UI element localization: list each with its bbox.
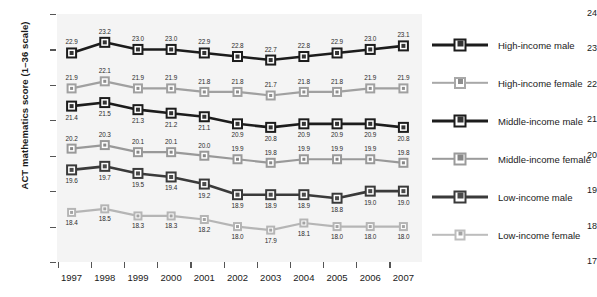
- data-point-marker-core: [401, 125, 405, 129]
- x-tick-mark: [257, 262, 258, 268]
- legend-swatch: [432, 228, 488, 242]
- data-point-value-label: 21.9: [355, 74, 385, 81]
- y-tick-mark: [50, 156, 56, 157]
- data-point-value-label: 21.8: [223, 78, 253, 85]
- data-point-marker-core: [169, 175, 173, 179]
- legend-label: Low-income male: [498, 192, 572, 203]
- data-point-value-label: 20.8: [388, 135, 418, 142]
- data-point-value-label: 23.1: [388, 31, 418, 38]
- data-point-marker-core: [302, 122, 306, 126]
- data-point-value-label: 18.2: [189, 226, 219, 233]
- x-tick-mark: [58, 262, 59, 268]
- data-point-value-label: 21.9: [123, 74, 153, 81]
- data-point-marker-core: [336, 90, 339, 93]
- data-point-value-label: 19.6: [57, 177, 87, 184]
- data-point-marker-core: [170, 214, 173, 217]
- data-point-marker-core: [269, 94, 272, 97]
- legend-marker: [454, 191, 467, 204]
- data-point-value-label: 20.1: [123, 138, 153, 145]
- data-point-marker-core: [169, 111, 173, 115]
- data-point-value-label: 22.9: [189, 38, 219, 45]
- legend-label: High-income male: [498, 40, 575, 51]
- data-point-value-label: 19.8: [388, 149, 418, 156]
- data-point-value-label: 23.0: [156, 35, 186, 42]
- data-point-marker-core: [170, 87, 173, 90]
- data-point-value-label: 21.7: [256, 81, 286, 88]
- data-point-value-label: 20.1: [156, 138, 186, 145]
- x-tick-mark: [290, 262, 291, 268]
- data-point-marker-core: [302, 158, 305, 161]
- data-point-value-label: 19.7: [90, 174, 120, 181]
- legend-item[interactable]: Middle-income female: [432, 148, 591, 170]
- data-point-marker-core: [136, 47, 140, 51]
- legend-swatch: [432, 76, 488, 90]
- legend-label: High-income female: [498, 78, 582, 89]
- data-point-marker-core: [202, 115, 206, 119]
- data-point-value-label: 20.0: [189, 142, 219, 149]
- data-point-value-label: 21.9: [388, 74, 418, 81]
- legend-swatch: [432, 152, 488, 166]
- data-point-marker-core: [369, 158, 372, 161]
- x-tick-mark: [124, 262, 125, 268]
- x-tick-mark: [356, 262, 357, 268]
- data-point-value-label: 19.5: [123, 181, 153, 188]
- data-point-value-label: 18.5: [90, 215, 120, 222]
- data-point-marker-core: [203, 218, 206, 221]
- legend-item[interactable]: Low-income male: [432, 186, 572, 208]
- data-point-marker-core: [402, 225, 405, 228]
- data-point-marker-core: [335, 196, 339, 200]
- data-point-marker-core: [203, 154, 206, 157]
- data-point-value-label: 19.2: [189, 192, 219, 199]
- data-point-marker-core: [401, 44, 405, 48]
- data-point-marker-core: [402, 87, 405, 90]
- data-point-marker-core: [402, 161, 405, 164]
- y-tick-mark: [50, 85, 56, 86]
- data-point-value-label: 18.9: [256, 202, 286, 209]
- legend-item[interactable]: High-income male: [432, 34, 575, 56]
- data-point-marker-core: [136, 108, 140, 112]
- data-point-value-label: 22.1: [90, 67, 120, 74]
- data-point-value-label: 18.0: [355, 233, 385, 240]
- data-point-marker-core: [169, 47, 173, 51]
- data-point-marker-core: [236, 90, 239, 93]
- data-point-value-label: 20.9: [322, 131, 352, 138]
- data-point-value-label: 21.3: [123, 117, 153, 124]
- y-tick-mark: [50, 262, 56, 263]
- y-axis-line: [0, 0, 1, 249]
- data-point-value-label: 18.0: [322, 233, 352, 240]
- chart-root: ACT mathematics score (1–36 scale) 17181…: [0, 0, 597, 297]
- data-point-value-label: 18.4: [57, 219, 87, 226]
- legend-item[interactable]: High-income female: [432, 72, 582, 94]
- data-point-marker-core: [401, 189, 405, 193]
- data-point-value-label: 21.8: [289, 78, 319, 85]
- data-point-value-label: 18.8: [322, 206, 352, 213]
- data-point-marker-core: [70, 104, 74, 108]
- data-point-value-label: 19.9: [289, 145, 319, 152]
- data-point-marker-core: [335, 122, 339, 126]
- legend-swatch: [432, 38, 488, 52]
- data-point-value-label: 22.8: [223, 42, 253, 49]
- data-point-marker-core: [302, 55, 306, 59]
- legend-item[interactable]: Low-income female: [432, 224, 580, 246]
- data-point-value-label: 21.9: [156, 74, 186, 81]
- data-point-value-label: 19.9: [322, 145, 352, 152]
- x-tick-mark: [389, 262, 390, 268]
- x-tick-mark: [91, 262, 92, 268]
- x-tick-mark: [224, 262, 225, 268]
- data-point-value-label: 21.5: [90, 110, 120, 117]
- legend-swatch: [432, 114, 488, 128]
- legend-marker: [454, 115, 467, 128]
- data-point-value-label: 21.8: [189, 78, 219, 85]
- y-tick-mark: [50, 120, 56, 121]
- legend-item[interactable]: Middle-income male: [432, 110, 583, 132]
- data-point-value-label: 20.9: [223, 131, 253, 138]
- data-point-value-label: 19.4: [156, 184, 186, 191]
- data-point-value-label: 22.7: [256, 46, 286, 53]
- legend-marker: [454, 77, 466, 89]
- data-point-marker-core: [136, 151, 139, 154]
- data-point-marker-core: [236, 122, 240, 126]
- data-point-value-label: 21.2: [156, 121, 186, 128]
- data-point-marker-core: [236, 193, 240, 197]
- y-tick-label: 17: [551, 256, 597, 266]
- legend-marker: [455, 230, 466, 241]
